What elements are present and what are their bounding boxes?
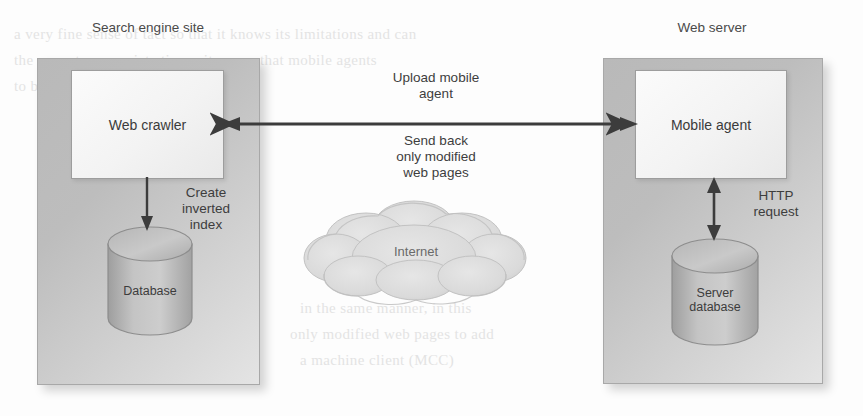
http-request-label: HTTP request — [740, 188, 812, 220]
mobile-agent-label: Mobile agent — [671, 117, 751, 133]
web-crawler-label: Web crawler — [109, 117, 187, 133]
web-crawler-node[interactable]: Web crawler — [71, 70, 224, 179]
network-link-arrow — [222, 117, 638, 131]
right-panel-title: Web server — [612, 20, 812, 35]
upload-mobile-agent-label: Upload mobile agent — [341, 70, 531, 102]
database-cylinder: Database — [106, 226, 194, 338]
bleed-text-line-6: a machine client (MCC) — [300, 352, 454, 369]
left-panel-title: Search engine site — [48, 20, 248, 35]
bleed-text-line-5: only modified web pages to add — [290, 326, 494, 343]
server-database-cylinder: Server database — [670, 238, 760, 348]
internet-cloud: Internet — [296, 196, 536, 321]
diagram-canvas: a very fine sense of tact so that it kno… — [0, 0, 863, 416]
internet-label: Internet — [296, 244, 536, 259]
mobile-agent-node[interactable]: Mobile agent — [635, 70, 787, 179]
send-back-modified-pages-label: Send back only modified web pages — [356, 133, 516, 181]
